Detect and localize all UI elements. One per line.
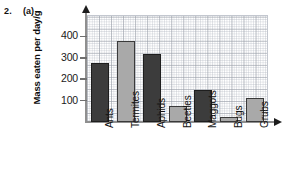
x-tick-label-ants: Ants — [104, 108, 115, 128]
y-tick-label: 400 — [22, 29, 78, 41]
y-tick-mark — [80, 78, 87, 80]
x-tick-label-bugs: Bugs — [233, 106, 244, 128]
y-tick-mark — [80, 57, 87, 59]
question-number: 2. — [4, 6, 12, 16]
x-tick-label-termites: Termites — [130, 91, 141, 128]
figure-container: 2. (a) Mass eaten per day/g 100200300400… — [0, 0, 292, 187]
y-tick-mark — [80, 36, 87, 38]
y-tick-mark — [80, 100, 87, 102]
y-tick-label: 100 — [22, 94, 78, 106]
x-tick-label-beetles: Beetles — [182, 95, 193, 128]
y-tick-label: 300 — [22, 51, 78, 63]
x-tick-label-grubs: Grubs — [259, 101, 270, 128]
x-tick-label-maggots: Maggots — [207, 90, 218, 128]
y-tick-label: 200 — [22, 72, 78, 84]
x-tick-label-aphids: Aphids — [156, 98, 167, 128]
